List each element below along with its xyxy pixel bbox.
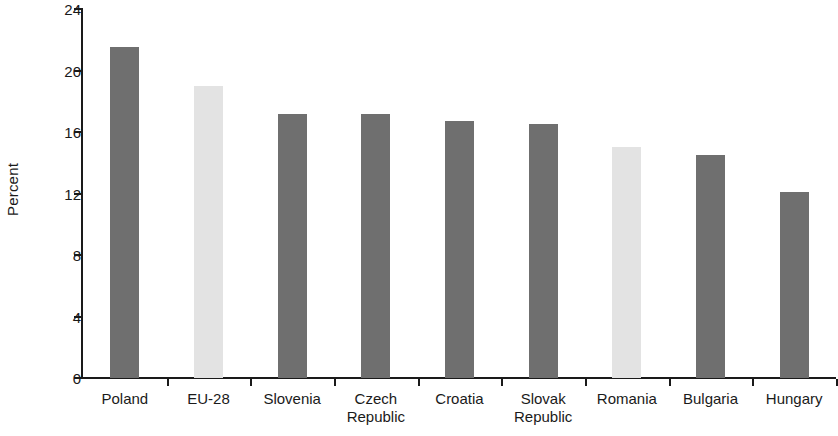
x-axis-category-label-line: Croatia (435, 390, 483, 407)
x-axis-category-label: Slovenia (250, 390, 334, 408)
x-axis-category-label-line: Slovenia (263, 390, 321, 407)
x-axis-category-label: Hungary (752, 390, 836, 408)
x-axis-category-label: Croatia (418, 390, 502, 408)
x-axis-tick-mark (501, 379, 503, 386)
x-axis-tick-mark (334, 379, 336, 386)
x-axis-category-label: Bulgaria (669, 390, 753, 408)
bar-poland (110, 47, 139, 378)
bar-czech-republic (361, 114, 390, 378)
x-axis-tick-mark (167, 379, 169, 386)
bar-slovak-republic (529, 124, 558, 378)
x-axis-category-label-line: Poland (101, 390, 148, 407)
bars-layer: PolandEU-28SloveniaCzechRepublicCroatiaS… (0, 0, 838, 436)
bar-slovenia (278, 114, 307, 378)
x-axis-category-label-line: Romania (597, 390, 657, 407)
bar-croatia (445, 121, 474, 378)
x-axis-category-label-line: Slovak (521, 390, 566, 407)
bar-eu-28 (194, 86, 223, 378)
x-axis-tick-mark (585, 379, 587, 386)
x-axis-category-label-line: EU-28 (187, 390, 230, 407)
x-axis-category-label-line: Republic (501, 408, 585, 426)
x-axis-tick-mark (250, 379, 252, 386)
x-axis-tick-mark (669, 379, 671, 386)
bar-bulgaria (696, 155, 725, 378)
x-axis-category-label: SlovakRepublic (501, 390, 585, 426)
x-axis-tick-mark (418, 379, 420, 386)
x-axis-category-label-line: Hungary (766, 390, 823, 407)
x-axis-category-label-line: Republic (334, 408, 418, 426)
x-axis-category-label: Poland (83, 390, 167, 408)
x-axis-category-label: EU-28 (167, 390, 251, 408)
bar-hungary (780, 192, 809, 378)
x-axis-category-label: Romania (585, 390, 669, 408)
bar-chart: Percent 04812162024 PolandEU-28SloveniaC… (0, 0, 838, 436)
x-axis-tick-mark (752, 379, 754, 386)
bar-romania (612, 147, 641, 378)
x-axis-category-label: CzechRepublic (334, 390, 418, 426)
x-axis-category-label-line: Bulgaria (683, 390, 738, 407)
x-axis-category-label-line: Czech (355, 390, 398, 407)
